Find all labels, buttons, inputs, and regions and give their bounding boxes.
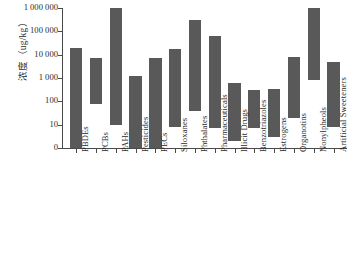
x-tick-mark <box>175 149 176 153</box>
x-tick-mark <box>116 149 117 153</box>
x-tick-mark <box>254 149 255 153</box>
x-tick-mark <box>235 149 236 153</box>
y-tick-label: 1 000 <box>39 72 58 82</box>
x-tick-mark <box>155 149 156 153</box>
x-tick-label: PAHs <box>120 132 130 152</box>
x-tick-mark <box>334 149 335 153</box>
y-tick-label: 10 000 <box>34 49 58 59</box>
x-tick-label: Phthalates <box>199 116 209 152</box>
x-tick-label: Illicit Drugs <box>239 109 249 152</box>
y-tick-label: 10 <box>49 119 58 129</box>
y-tick-mark <box>58 148 62 149</box>
x-tick-mark <box>195 149 196 153</box>
y-tick-label: 1 000 000 <box>24 2 58 12</box>
x-tick-label: PBDEs <box>80 126 90 152</box>
range-bar <box>189 20 201 110</box>
y-tick-mark <box>58 78 62 79</box>
x-tick-label: Benzotriazoles <box>258 100 268 152</box>
range-bar <box>110 8 122 125</box>
x-tick-mark <box>215 149 216 153</box>
x-tick-mark <box>274 149 275 153</box>
y-tick-label: 100 <box>45 95 58 105</box>
x-tick-label: Pesticides <box>140 117 150 152</box>
range-bar <box>308 8 320 80</box>
x-tick-label: PECs <box>159 132 169 152</box>
y-tick-mark <box>58 55 62 56</box>
x-tick-mark <box>294 149 295 153</box>
y-tick-mark <box>58 8 62 9</box>
x-tick-mark <box>96 149 97 153</box>
x-tick-label: Nonylpheols <box>318 107 328 152</box>
y-tick-mark <box>58 125 62 126</box>
y-axis-label: 浓度（ug/kg） <box>15 1 29 97</box>
x-tick-label: Organotins <box>298 113 308 152</box>
range-bar <box>288 57 300 118</box>
range-bar <box>90 58 102 103</box>
range-bar <box>169 49 181 127</box>
x-tick-label: Estrogens <box>278 117 288 152</box>
x-tick-label: Siloxanes <box>179 118 189 152</box>
x-tick-label: Pharmaceuticals <box>219 94 229 152</box>
y-tick-label: 100 000 <box>30 25 58 35</box>
y-axis-line <box>62 8 63 149</box>
x-tick-label: PCBs <box>100 132 110 152</box>
x-tick-mark <box>136 149 137 153</box>
y-tick-label: 0 <box>54 142 58 152</box>
y-tick-mark <box>58 31 62 32</box>
x-tick-label: Artificial Sweeteners <box>338 77 348 152</box>
x-tick-mark <box>314 149 315 153</box>
x-tick-mark <box>76 149 77 153</box>
concentration-range-chart: 浓度（ug/kg） 1 000 000100 00010 0001 000100… <box>0 0 352 264</box>
y-tick-mark <box>58 101 62 102</box>
